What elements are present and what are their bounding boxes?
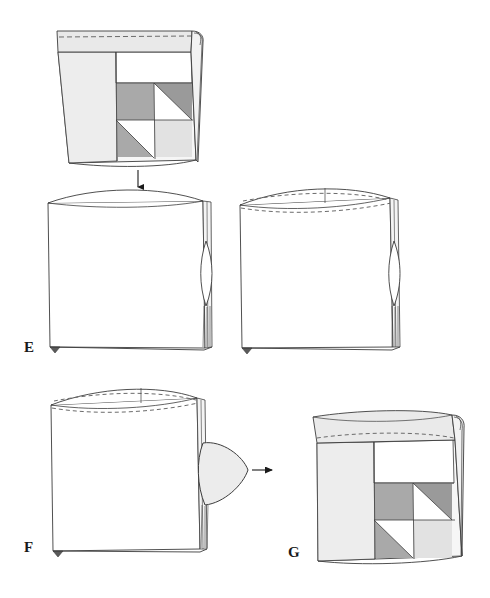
patch-cell-top-left <box>374 483 413 520</box>
white-upper-patch <box>116 52 192 83</box>
figure-e-right <box>240 188 400 354</box>
label-g: G <box>288 544 300 560</box>
figure-g <box>313 411 464 564</box>
top-hem-band <box>57 31 192 52</box>
patch-cell-top-left <box>116 83 154 120</box>
label-e: E <box>24 339 34 355</box>
protruding-gusset-flap <box>198 443 248 505</box>
figure-f-body <box>51 398 200 551</box>
bottom-corner-point <box>242 348 252 354</box>
patch-cell-bottom-right <box>413 520 452 558</box>
figure-e <box>48 190 212 353</box>
instruction-diagram-canvas: E F G <box>0 0 490 598</box>
figure-e-body <box>48 201 205 348</box>
rolled-top-band <box>313 411 455 443</box>
bottom-corner-point <box>53 551 63 557</box>
figure-f <box>51 388 248 557</box>
patch-cell-bottom-right <box>154 120 192 158</box>
figure-e-right-body <box>240 198 393 348</box>
curved-top-opening <box>48 190 203 203</box>
bottom-corner-point <box>50 347 60 353</box>
diagram-root: E F G <box>0 0 490 598</box>
left-side-panel <box>58 52 117 163</box>
figure-top <box>57 31 203 166</box>
label-f: F <box>24 539 33 555</box>
white-upper-patch <box>374 440 454 483</box>
left-side-panel <box>317 442 375 561</box>
